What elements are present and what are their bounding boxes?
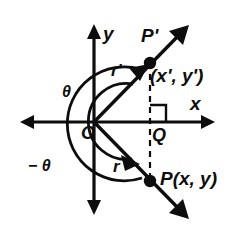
angle-label-theta-negative: − θ bbox=[28, 158, 51, 174]
x-axis-left-arrowhead bbox=[20, 115, 34, 129]
angle-label-theta-positive: θ bbox=[62, 84, 71, 100]
foot-label-q: Q bbox=[152, 126, 166, 144]
trigonometry-rotation-figure: y x O P' (x', y') P(x, y) Q r' r θ − θ bbox=[0, 0, 239, 232]
y-axis-top-arrowhead bbox=[87, 24, 101, 39]
right-angle-square-marker bbox=[150, 105, 166, 122]
origin-label: O bbox=[81, 124, 95, 142]
figure-canvas bbox=[0, 0, 239, 232]
y-axis-bottom-arrowhead bbox=[87, 200, 101, 215]
coord-label-p-prime: (x', y') bbox=[150, 66, 203, 85]
point-label-p: P(x, y) bbox=[160, 169, 217, 188]
point-dot-p bbox=[144, 175, 156, 187]
ray-to-p bbox=[94, 122, 180, 210]
segment-label-r-prime: r' bbox=[111, 62, 122, 79]
y-axis-label: y bbox=[103, 24, 114, 43]
segment-label-r: r bbox=[113, 158, 120, 175]
x-axis-label: x bbox=[190, 94, 201, 113]
x-axis-right-arrowhead bbox=[201, 115, 215, 129]
point-label-p-prime: P' bbox=[141, 26, 158, 45]
